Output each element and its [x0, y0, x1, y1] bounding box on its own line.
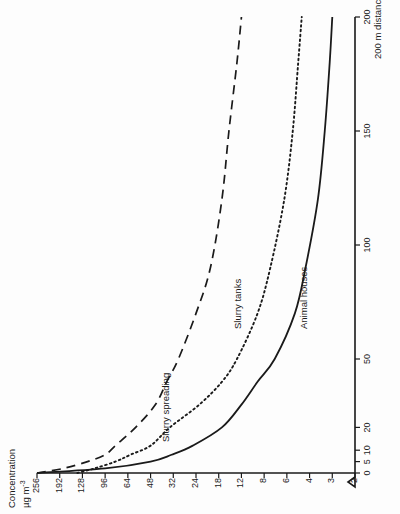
x-axis-title: 200 m distance [372, 0, 383, 59]
rotated-figure: Concentration µg m-3 200 m distance 2561… [0, 0, 400, 514]
y-tick-label: 48 [145, 478, 155, 506]
x-tick-label: 10 [362, 440, 372, 460]
y-tick-label: 64 [122, 478, 132, 506]
y-axis-title-exponent: -3 [19, 480, 26, 486]
y-tick-label: 256 [31, 478, 41, 506]
y-axis-title-line2: µg m [20, 487, 31, 508]
y-tick-label: 192 [54, 478, 64, 506]
x-tick-label: 200 [362, 7, 372, 27]
chart-canvas [0, 0, 400, 514]
y-axis-title: Concentration µg m-3 [6, 449, 31, 508]
figure-page: Concentration µg m-3 200 m distance 2561… [0, 0, 400, 514]
y-tick-label: 12 [235, 478, 245, 506]
y-tick-label: 2 [349, 478, 359, 506]
x-tick-label: 20 [362, 417, 372, 437]
y-tick-label: 6 [281, 478, 291, 506]
y-axis-title-line1: Concentration [6, 449, 17, 508]
curve-label-slurry-spreading: Slurry spreading [160, 373, 171, 442]
y-tick-label: 96 [99, 478, 109, 506]
y-tick-label: 18 [213, 478, 223, 506]
x-tick-label: 100 [362, 235, 372, 255]
x-tick-label: 50 [362, 349, 372, 369]
y-tick-label: 3 [326, 478, 336, 506]
curve-label-slurry-tanks: Slurry tanks [232, 279, 243, 329]
y-tick-label: 4 [304, 478, 314, 506]
x-tick-label: 150 [362, 121, 372, 141]
curve-label-animal-houses: Animal houses [298, 267, 309, 329]
y-tick-label: 128 [76, 478, 86, 506]
plot-area: Concentration µg m-3 200 m distance 2561… [0, 0, 400, 514]
y-tick-label: 32 [167, 478, 177, 506]
y-tick-label: 8 [258, 478, 268, 506]
y-tick-label: 24 [190, 478, 200, 506]
